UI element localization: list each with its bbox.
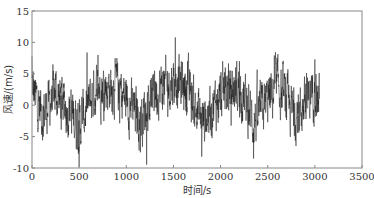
- y-tick-label: 15: [16, 6, 29, 17]
- plot-area: [32, 37, 320, 166]
- x-tick-label: 2500: [255, 171, 280, 182]
- x-axis-label: 时间/s: [183, 184, 212, 196]
- y-tick-label: -10: [13, 163, 29, 174]
- x-tick-label: 1000: [114, 171, 139, 182]
- y-axis-label: 风速/(m/s): [3, 65, 14, 115]
- y-tick-label: 0: [23, 100, 29, 111]
- y-tick-label: 5: [23, 68, 29, 79]
- wind-speed-line: [32, 37, 320, 166]
- x-tick-label: 3500: [349, 171, 374, 182]
- wind-speed-chart: 0500100015002000250030003500 -10-5051015…: [0, 0, 374, 198]
- x-tick-label: 500: [70, 171, 89, 182]
- y-tick-label: 10: [16, 37, 29, 48]
- y-tick-label: -5: [19, 131, 29, 142]
- x-tick-label: 2000: [208, 171, 233, 182]
- x-tick-label: 3000: [302, 171, 327, 182]
- x-tick-label: 0: [29, 171, 35, 182]
- x-tick-label: 1500: [161, 171, 186, 182]
